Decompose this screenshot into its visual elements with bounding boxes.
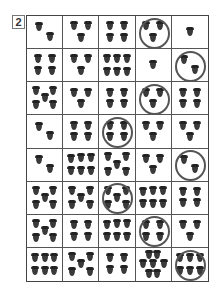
grid-cell[interactable] bbox=[99, 215, 135, 248]
acorn-icon bbox=[150, 61, 156, 69]
grid-cell[interactable] bbox=[27, 49, 63, 82]
acorn-icon bbox=[150, 187, 156, 195]
acorn-icon bbox=[85, 22, 91, 30]
acorn-icon bbox=[157, 155, 163, 163]
grid-cell[interactable] bbox=[136, 16, 172, 49]
grid-cell[interactable] bbox=[63, 115, 99, 148]
grid-cell[interactable] bbox=[27, 149, 63, 182]
acorn-icon bbox=[87, 201, 93, 209]
acorn-icon bbox=[143, 122, 149, 130]
grid-cell[interactable] bbox=[27, 215, 63, 248]
acorn-icon bbox=[150, 133, 156, 141]
acorn-icon bbox=[32, 254, 38, 262]
grid-cell[interactable] bbox=[172, 16, 208, 49]
acorn-icon bbox=[194, 89, 200, 97]
acorn-icon bbox=[114, 68, 120, 76]
circle-mark bbox=[139, 84, 170, 115]
acorn-icon bbox=[78, 154, 84, 162]
acorn-icon bbox=[140, 188, 146, 196]
grid-cell[interactable] bbox=[99, 82, 135, 115]
grid-cell[interactable] bbox=[136, 248, 172, 281]
acorn-icon bbox=[36, 23, 42, 31]
grid-cell[interactable] bbox=[136, 182, 172, 215]
acorn-icon bbox=[47, 132, 53, 140]
acorn-icon bbox=[107, 100, 113, 108]
acorn-icon bbox=[88, 154, 94, 162]
grid-cell[interactable] bbox=[172, 248, 208, 281]
grid-cell[interactable] bbox=[172, 49, 208, 82]
acorn-icon bbox=[33, 220, 39, 228]
acorn-icon bbox=[71, 233, 77, 241]
grid-cell[interactable] bbox=[172, 215, 208, 248]
grid-cell[interactable] bbox=[63, 149, 99, 182]
circle-mark bbox=[175, 250, 206, 281]
acorn-icon bbox=[105, 153, 111, 161]
grid-cell[interactable] bbox=[172, 182, 208, 215]
grid-cell[interactable] bbox=[99, 149, 135, 182]
acorn-icon bbox=[123, 168, 129, 176]
acorn-icon bbox=[71, 133, 77, 141]
grid-cell[interactable] bbox=[63, 248, 99, 281]
grid-cell[interactable] bbox=[63, 82, 99, 115]
acorn-icon bbox=[68, 155, 74, 163]
grid-cell[interactable] bbox=[27, 115, 63, 148]
acorn-icon bbox=[124, 68, 130, 76]
acorn-icon bbox=[107, 266, 113, 274]
acorn-icon bbox=[161, 260, 167, 268]
grid-cell[interactable] bbox=[172, 149, 208, 182]
acorn-icon bbox=[35, 55, 41, 63]
acorn-icon bbox=[42, 227, 48, 235]
acorn-icon bbox=[71, 221, 77, 229]
acorn-icon bbox=[107, 22, 113, 30]
grid-cell[interactable] bbox=[99, 115, 135, 148]
acorn-icon bbox=[36, 123, 42, 131]
acorn-icon bbox=[71, 122, 77, 130]
acorn-icon bbox=[114, 161, 120, 169]
acorn-icon bbox=[114, 233, 120, 241]
acorn-icon bbox=[35, 67, 41, 75]
grid-cell[interactable] bbox=[136, 115, 172, 148]
acorn-icon bbox=[143, 155, 149, 163]
grid-cell[interactable] bbox=[63, 215, 99, 248]
grid-cell[interactable] bbox=[99, 182, 135, 215]
acorn-icon bbox=[33, 234, 39, 242]
acorn-icon bbox=[154, 251, 160, 259]
acorn-icon bbox=[85, 122, 91, 130]
grid-cell[interactable] bbox=[27, 82, 63, 115]
grid-cell[interactable] bbox=[136, 82, 172, 115]
acorn-icon bbox=[146, 270, 152, 278]
grid-cell[interactable] bbox=[27, 182, 63, 215]
acorn-icon bbox=[187, 28, 193, 36]
grid-cell[interactable] bbox=[172, 115, 208, 148]
acorn-icon bbox=[105, 168, 111, 176]
grid-cell[interactable] bbox=[63, 16, 99, 49]
grid-cell[interactable] bbox=[63, 49, 99, 82]
acorn-icon bbox=[47, 33, 53, 41]
acorn-icon bbox=[49, 67, 55, 75]
acorn-icon bbox=[68, 167, 74, 175]
grid-cell[interactable] bbox=[136, 215, 172, 248]
circle-mark bbox=[175, 51, 206, 82]
acorn-icon bbox=[121, 254, 127, 262]
circle-mark bbox=[139, 18, 170, 49]
acorn-icon bbox=[121, 89, 127, 97]
grid-cell[interactable] bbox=[27, 16, 63, 49]
acorn-icon bbox=[180, 100, 186, 108]
grid-cell[interactable] bbox=[136, 149, 172, 182]
acorn-icon bbox=[146, 251, 152, 259]
acorn-icon bbox=[51, 254, 57, 262]
acorn-icon bbox=[160, 200, 166, 208]
grid-cell[interactable] bbox=[99, 248, 135, 281]
grid-cell[interactable] bbox=[99, 49, 135, 82]
acorn-icon bbox=[107, 89, 113, 97]
grid-cell[interactable] bbox=[63, 182, 99, 215]
grid-cell[interactable] bbox=[172, 82, 208, 115]
grid-cell[interactable] bbox=[27, 248, 63, 281]
acorn-icon bbox=[50, 87, 56, 95]
acorn-icon bbox=[50, 201, 56, 209]
acorn-grid bbox=[26, 15, 209, 282]
acorn-icon bbox=[69, 253, 75, 261]
grid-cell[interactable] bbox=[136, 49, 172, 82]
acorn-icon bbox=[50, 220, 56, 228]
grid-cell[interactable] bbox=[99, 16, 135, 49]
